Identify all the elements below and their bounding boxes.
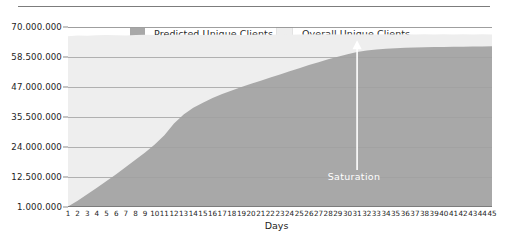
- x-axis-tick-label: 8: [133, 209, 138, 218]
- x-axis-tick-label: 31: [353, 209, 362, 218]
- x-axis-tick-label: 28: [324, 209, 333, 218]
- x-axis-tick-label: 27: [314, 209, 323, 218]
- x-axis-tick-label: 17: [218, 209, 227, 218]
- x-axis-tick-label: 32: [362, 209, 371, 218]
- x-axis-tick-label: 29: [333, 209, 342, 218]
- x-axis-tick-label: 3: [85, 209, 90, 218]
- x-axis-tick-label: 38: [420, 209, 429, 218]
- x-axis-tick-label: 11: [160, 209, 169, 218]
- x-axis-tick-label: 5: [104, 209, 109, 218]
- y-axis-tick-label: 58.500.000: [0, 52, 62, 62]
- x-axis-tick-label: 23: [275, 209, 284, 218]
- x-axis-tick-label: 37: [410, 209, 419, 218]
- x-axis-tick-label: 39: [430, 209, 439, 218]
- x-axis-tick-label: 6: [114, 209, 119, 218]
- y-axis-tick-label: 1.000.000: [0, 202, 62, 212]
- x-axis-tick-label: 19: [237, 209, 246, 218]
- saturation-annotation-label: Saturation: [328, 171, 381, 182]
- chart-canvas: [68, 27, 492, 207]
- x-axis-tick-label: 45: [487, 209, 496, 218]
- x-axis-title-text: Days: [265, 220, 289, 231]
- plot-area: [68, 27, 492, 207]
- x-axis-tick-label: 33: [372, 209, 381, 218]
- x-axis-tick-label: 30: [343, 209, 352, 218]
- chart-figure: Predicted Unique Clients Overall Unique …: [0, 0, 509, 243]
- x-axis-tick-label: 4: [95, 209, 100, 218]
- x-axis-tick-label: 1: [66, 209, 71, 218]
- y-axis-tick-label: 35.500.000: [0, 112, 62, 122]
- x-axis-tick-label: 41: [449, 209, 458, 218]
- x-axis-tick-label: 24: [285, 209, 294, 218]
- x-axis-title: Days: [0, 220, 509, 231]
- x-axis-tick-label: 7: [124, 209, 129, 218]
- x-axis-tick-label: 26: [304, 209, 313, 218]
- y-axis-tick-label: 70.000.000: [0, 22, 62, 32]
- x-axis-tick-label: 10: [150, 209, 159, 218]
- x-axis-tick-label: 18: [227, 209, 236, 218]
- x-axis-tick-label: 12: [169, 209, 178, 218]
- header-divider: [18, 6, 490, 7]
- x-axis-tick-label: 42: [459, 209, 468, 218]
- x-axis-tick-label: 22: [266, 209, 275, 218]
- x-axis-tick-label: 35: [391, 209, 400, 218]
- x-axis-tick-label: 16: [208, 209, 217, 218]
- x-axis-tick-label: 21: [256, 209, 265, 218]
- x-axis-tick-label: 15: [198, 209, 207, 218]
- x-axis-tick-label: 34: [381, 209, 390, 218]
- x-axis-tick-label: 43: [468, 209, 477, 218]
- x-axis-tick-label: 36: [401, 209, 410, 218]
- x-axis-tick-label: 20: [247, 209, 256, 218]
- x-axis-tick-label: 40: [439, 209, 448, 218]
- y-axis-tick-label: 24.000.000: [0, 142, 62, 152]
- y-axis-tick-label: 12.500.000: [0, 172, 62, 182]
- x-axis-tick-label: 44: [478, 209, 487, 218]
- x-axis-tick-label: 9: [143, 209, 148, 218]
- x-axis-tick-label: 2: [75, 209, 80, 218]
- y-axis-tick-label: 47.000.000: [0, 82, 62, 92]
- x-axis-tick-label: 25: [295, 209, 304, 218]
- x-axis-tick-label: 13: [179, 209, 188, 218]
- y-axis: 70.000.00058.500.00047.000.00035.500.000…: [0, 27, 62, 207]
- x-axis-tick-label: 14: [189, 209, 198, 218]
